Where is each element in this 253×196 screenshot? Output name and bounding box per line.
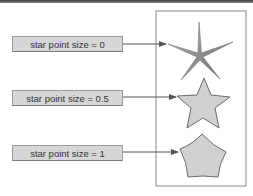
pentagon-icon bbox=[180, 134, 226, 177]
star-regular-icon bbox=[177, 78, 230, 128]
star-thin-icon bbox=[168, 22, 233, 80]
star-diagram bbox=[0, 0, 253, 196]
